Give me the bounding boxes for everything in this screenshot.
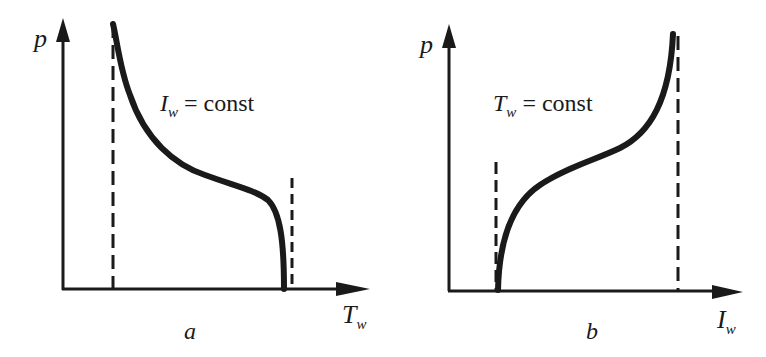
y-axis-label-a: p [34, 24, 47, 54]
x-axis-label-a-main: T [342, 300, 356, 329]
annotation-a-sub: w [168, 104, 178, 120]
x-axis-label-b-main: I [717, 305, 726, 334]
x-axis-label-b-sub: w [726, 321, 736, 337]
x-axis-arrowhead-b [712, 285, 743, 299]
annotation-b-main: T [493, 90, 506, 116]
x-axis-label-a-sub: w [356, 316, 366, 332]
annotation-a: Iw = const [160, 90, 254, 121]
x-axis-label-b: Iw [717, 305, 736, 338]
diagram-canvas [0, 0, 766, 357]
x-axis-label-a: Tw [342, 300, 366, 333]
panel-label-a: a [184, 318, 196, 345]
panel-b [442, 24, 743, 299]
x-axis-arrowhead-a [336, 282, 370, 296]
panel-a [56, 18, 370, 296]
annotation-b-rest: = const [516, 90, 592, 116]
annotation-a-rest: = const [178, 90, 254, 116]
y-axis-label-b: p [420, 30, 433, 60]
annotation-b: Tw = const [493, 90, 593, 121]
curve-p-vs-Tw [113, 24, 284, 289]
y-axis-arrowhead-b [442, 24, 456, 48]
y-axis-arrowhead-a [56, 18, 70, 42]
curve-p-vs-Iw [498, 34, 673, 290]
annotation-a-main: I [160, 90, 168, 116]
panel-label-b: b [586, 318, 598, 345]
annotation-b-sub: w [506, 104, 516, 120]
